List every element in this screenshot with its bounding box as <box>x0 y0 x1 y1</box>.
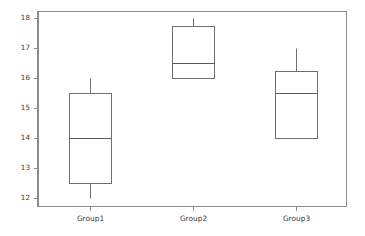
boxplot-figure: 12131415161718 Group1Group2Group3 <box>0 0 365 236</box>
y-tick-label: 15 <box>21 103 30 112</box>
y-axis: 12131415161718 <box>21 11 38 207</box>
y-tick-label: 18 <box>21 13 31 22</box>
box-iqr <box>276 72 318 139</box>
y-tick-label: 14 <box>21 133 31 142</box>
y-tick-label: 16 <box>21 73 31 82</box>
y-tick-label: 13 <box>21 163 30 172</box>
box-series <box>70 19 318 199</box>
x-tick-label-group2: Group2 <box>180 214 207 223</box>
x-axis: Group1Group2Group3 <box>77 207 311 223</box>
box-iqr <box>173 27 215 79</box>
x-tick-label-group1: Group1 <box>77 214 105 223</box>
boxplot-group1 <box>70 79 112 199</box>
boxplot-group2 <box>173 19 215 79</box>
boxplot-canvas: 12131415161718 Group1Group2Group3 <box>0 0 365 236</box>
boxplot-group3 <box>276 49 318 139</box>
x-tick-label-group3: Group3 <box>283 214 311 223</box>
y-tick-label: 17 <box>21 43 30 52</box>
y-tick-label: 12 <box>21 193 30 202</box>
